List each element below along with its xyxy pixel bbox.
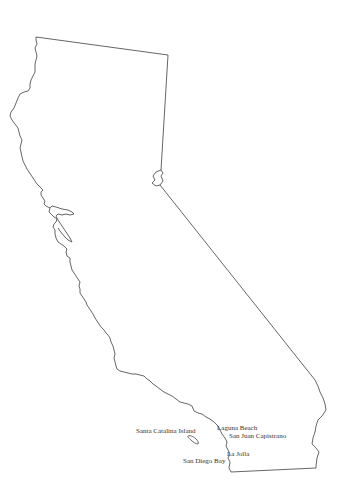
state-border bbox=[10, 37, 326, 472]
california-map: Santa Catalina Island Laguna Beach San J… bbox=[0, 0, 358, 498]
santa-catalina-island bbox=[188, 436, 199, 444]
label-san-diego-bay: San Diego Bay bbox=[183, 458, 225, 465]
label-la-jolla: La Jolla bbox=[227, 451, 249, 458]
california-outline bbox=[0, 0, 358, 498]
label-santa-catalina-island: Santa Catalina Island bbox=[136, 428, 195, 435]
label-laguna-beach: Laguna Beach bbox=[217, 425, 257, 432]
label-san-juan-capistrano: San Juan Capistrano bbox=[229, 433, 286, 440]
